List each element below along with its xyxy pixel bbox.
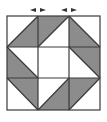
arrow-right-icon	[71, 8, 77, 12]
left-arrow-marker	[30, 8, 46, 12]
arrow-left-icon	[61, 8, 67, 12]
quilt-block-diagram	[0, 0, 107, 122]
shaded-triangles	[7, 16, 100, 110]
arrow-markers	[30, 8, 77, 12]
arrow-left-icon	[30, 8, 36, 12]
right-arrow-marker	[61, 8, 77, 12]
arrow-right-icon	[40, 8, 46, 12]
